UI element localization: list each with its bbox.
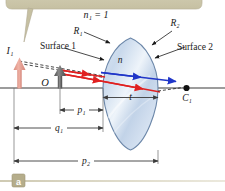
image-point-label: I₁ xyxy=(6,45,14,56)
surface-2-label: Surface 2 xyxy=(177,42,213,52)
image-distance-1-label: q₁ xyxy=(55,123,63,133)
medium-index-label: n₁ = 1 xyxy=(83,9,108,20)
optics-diagram-svg: n₁ = 1 R₁ R₂ Surface 1 Surface 2 n I₁ O … xyxy=(0,0,225,191)
object-distance-2-label: p₂ xyxy=(81,156,91,166)
figure-panel: n₁ = 1 R₁ R₂ Surface 1 Surface 2 n I₁ O … xyxy=(0,0,225,191)
surface-1-label: Surface 1 xyxy=(40,41,76,51)
object-distance-1-label: p₁ xyxy=(76,105,85,115)
lens-index-label: n xyxy=(118,55,123,65)
radius-2-label: R₂ xyxy=(169,18,180,28)
footer-rule xyxy=(0,180,225,182)
center-curvature-label: C₁ xyxy=(182,93,192,103)
thickness-label: t xyxy=(129,92,132,102)
center-of-curvature-point xyxy=(183,85,189,91)
object-point-label: O xyxy=(41,77,49,88)
radius-1-label: R₁ xyxy=(72,26,82,36)
